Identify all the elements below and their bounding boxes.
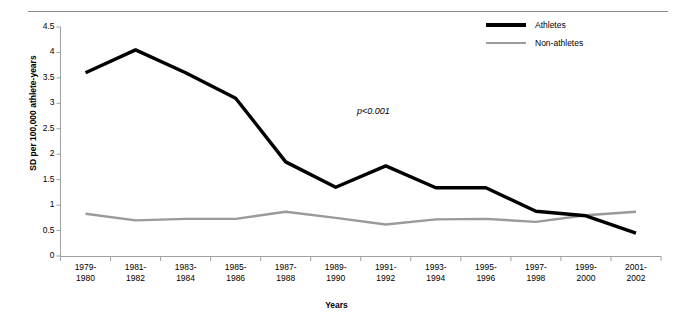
- x-tick-label-line: 1988: [260, 273, 312, 284]
- x-tick-label-line: 1989-: [310, 262, 362, 273]
- legend-item-non-athletes: Non-athletes: [486, 34, 583, 52]
- x-tick-label: 1979-1980: [60, 262, 112, 284]
- x-tick-label: 1989-1990: [310, 262, 362, 284]
- x-tick-label-line: 1996: [460, 273, 512, 284]
- x-tick-label: 1981-1982: [110, 262, 162, 284]
- y-tick-label: 0: [21, 251, 55, 260]
- chart-legend: Athletes Non-athletes: [486, 16, 583, 52]
- x-tick-label: 1993-1994: [410, 262, 462, 284]
- x-tick-label-line: 2000: [560, 273, 612, 284]
- y-tick-marks: [57, 27, 61, 256]
- x-tick-label: 1985-1986: [210, 262, 262, 284]
- legend-line-icon-non-athletes: [486, 42, 526, 44]
- x-tick-label-line: 1992: [360, 273, 412, 284]
- legend-label-non-athletes: Non-athletes: [535, 38, 583, 48]
- x-tick-label-line: 1993-: [410, 262, 462, 273]
- x-tick-label: 1991-1992: [360, 262, 412, 284]
- x-tick-label: 1995-1996: [460, 262, 512, 284]
- x-tick-label-line: 1985-: [210, 262, 262, 273]
- x-tick-label-line: 1998: [510, 273, 562, 284]
- x-tick-label-line: 2001-: [610, 262, 662, 273]
- x-tick-label: 1983-1984: [160, 262, 212, 284]
- x-tick-label-line: 1990: [310, 273, 362, 284]
- x-tick-label-line: 2002: [610, 273, 662, 284]
- chart-figure: 00.511.522.533.544.5 1979-19801981-19821…: [0, 0, 673, 325]
- x-tick-label-line: 1984: [160, 273, 212, 284]
- x-tick-label: 2001-2002: [610, 262, 662, 284]
- y-axis-title: SD per 100,000 athlete-years: [28, 18, 38, 208]
- x-tick-label-line: 1982: [110, 273, 162, 284]
- series-line-athletes: [86, 50, 636, 233]
- x-tick-label-line: 1997-: [510, 262, 562, 273]
- x-tick-label-line: 1981-: [110, 262, 162, 273]
- x-tick-label-line: 1991-: [360, 262, 412, 273]
- legend-line-icon-athletes: [486, 23, 526, 27]
- x-tick-label-line: 1980: [60, 273, 112, 284]
- x-tick-label-line: 1999-: [560, 262, 612, 273]
- x-tick-label: 1997-1998: [510, 262, 562, 284]
- x-tick-label-line: 1987-: [260, 262, 312, 273]
- x-tick-label: 1987-1988: [260, 262, 312, 284]
- y-tick-label: 0.5: [21, 226, 55, 235]
- x-tick-label: 1999-2000: [560, 262, 612, 284]
- legend-item-athletes: Athletes: [486, 16, 583, 34]
- p-value-annotation: p<0.001: [357, 106, 390, 116]
- x-tick-label-line: 1986: [210, 273, 262, 284]
- legend-label-athletes: Athletes: [535, 20, 566, 30]
- x-tick-label-line: 1979-: [60, 262, 112, 273]
- x-tick-label-line: 1983-: [160, 262, 212, 273]
- x-tick-label-line: 1994: [410, 273, 462, 284]
- x-axis-title: Years: [0, 300, 673, 310]
- x-tick-label-line: 1995-: [460, 262, 512, 273]
